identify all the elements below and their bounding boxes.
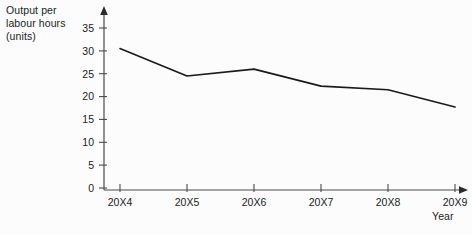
x-tick-label-20X5: 20X5 bbox=[165, 196, 209, 208]
y-tick-label-10: 10 bbox=[68, 136, 94, 148]
x-tick-label-20X6: 20X6 bbox=[232, 196, 276, 208]
y-axis-ticks bbox=[99, 28, 107, 188]
x-tick-label-20X7: 20X7 bbox=[299, 196, 343, 208]
y-tick-label-0: 0 bbox=[68, 182, 94, 194]
y-tick-label-35: 35 bbox=[68, 22, 94, 34]
x-axis-arrow-icon bbox=[459, 186, 468, 194]
x-tick-label-20X4: 20X4 bbox=[98, 196, 142, 208]
x-tick-label-20X9: 20X9 bbox=[433, 196, 472, 208]
chart-axes bbox=[100, 6, 468, 194]
y-tick-label-30: 30 bbox=[68, 45, 94, 57]
x-tick-label-20X8: 20X8 bbox=[366, 196, 410, 208]
x-axis-ticks bbox=[120, 184, 455, 192]
y-tick-label-25: 25 bbox=[68, 68, 94, 80]
line-chart: Output perlabour hours(units) Year bbox=[0, 0, 472, 234]
data-series-line bbox=[120, 49, 455, 108]
y-axis-arrow-icon bbox=[100, 6, 108, 15]
y-tick-label-5: 5 bbox=[68, 159, 94, 171]
y-tick-label-15: 15 bbox=[68, 113, 94, 125]
y-tick-label-20: 20 bbox=[68, 90, 94, 102]
